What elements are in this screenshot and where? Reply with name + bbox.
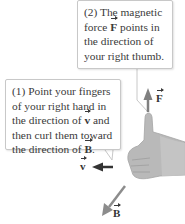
- fingers-callout: (1) Point your fingers of your right han…: [5, 79, 121, 150]
- field-vector-symbol: B: [84, 142, 92, 157]
- velocity-label-symbol: v: [80, 160, 86, 172]
- force-label-symbol: F: [156, 92, 163, 104]
- fingers-callout-text-end: .: [92, 143, 95, 155]
- force-vector-symbol: F: [110, 20, 117, 35]
- field-label: B: [113, 207, 120, 219]
- right-hand-icon: [128, 113, 185, 179]
- velocity-label: v: [80, 160, 86, 172]
- force-callout: (2) The magnetic force F points in the d…: [77, 0, 173, 69]
- force-callout-leader: [137, 69, 148, 112]
- force-label: F: [156, 92, 163, 104]
- field-label-symbol: B: [113, 207, 120, 219]
- velocity-arrow-icon: [92, 163, 113, 172]
- fingers-callout-leader: [105, 150, 113, 160]
- velocity-vector-symbol: v: [84, 113, 90, 128]
